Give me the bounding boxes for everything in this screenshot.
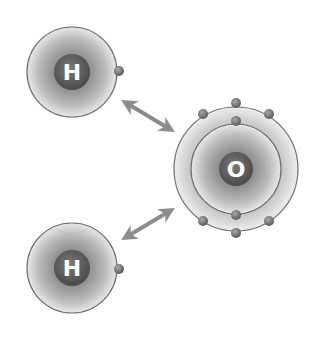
bidirectional-arrow-top bbox=[128, 104, 168, 128]
electron bbox=[231, 116, 241, 126]
bidirectional-arrow-bottom bbox=[128, 212, 168, 236]
atom-symbol: O bbox=[227, 157, 246, 182]
hydrogen-atom-bottom: H bbox=[27, 223, 124, 313]
electron bbox=[198, 109, 208, 119]
electron bbox=[264, 109, 274, 119]
electron bbox=[114, 264, 124, 274]
hydrogen-atom-top: H bbox=[27, 27, 124, 117]
water-molecule-diagram: H H O bbox=[0, 0, 310, 341]
electron bbox=[114, 66, 124, 76]
electron bbox=[231, 210, 241, 220]
electron bbox=[231, 98, 241, 108]
electron bbox=[198, 216, 208, 226]
oxygen-atom: O bbox=[174, 98, 298, 238]
atom-symbol: H bbox=[63, 60, 81, 85]
electron bbox=[231, 228, 241, 238]
atom-symbol: H bbox=[63, 256, 81, 281]
electron bbox=[264, 216, 274, 226]
